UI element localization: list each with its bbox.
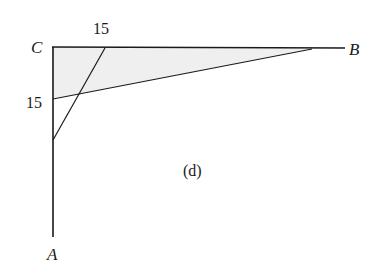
vertex-label-c: C [31, 39, 42, 56]
measure-label-top: 15 [93, 21, 109, 37]
vertex-label-a: A [47, 246, 57, 263]
vertex-label-b: B [349, 41, 359, 58]
geometry-figure: C B A 15 15 (d) [0, 0, 377, 277]
geometry-canvas [0, 0, 377, 277]
line-segment-cb [52, 47, 345, 48]
measure-label-left: 15 [26, 95, 42, 111]
figure-caption: (d) [183, 163, 202, 179]
